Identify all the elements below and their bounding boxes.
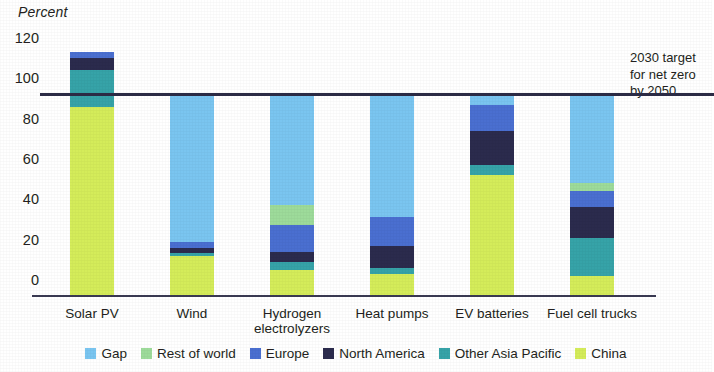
- legend-swatch-icon: [575, 348, 586, 359]
- legend-swatch-icon: [141, 348, 152, 359]
- bar-segment[interactable]: [70, 106, 114, 296]
- bar-segment[interactable]: [570, 183, 614, 192]
- bar-segment[interactable]: [170, 247, 214, 253]
- bar-segment[interactable]: [170, 255, 214, 296]
- target-annotation-line: for net zero: [630, 67, 714, 84]
- bar-segment[interactable]: [270, 269, 314, 296]
- bar-segment[interactable]: [570, 275, 614, 296]
- x-axis-category-label-line: EV batteries: [455, 306, 529, 321]
- x-axis-category-label-line: Hydrogen: [254, 306, 330, 321]
- x-axis-category-label: Heat pumps: [356, 306, 429, 321]
- x-axis-category-label: Fuel cell trucks: [547, 306, 637, 321]
- bar-segment[interactable]: [270, 205, 314, 226]
- bar-segment[interactable]: [570, 191, 614, 208]
- bar-segment[interactable]: [570, 207, 614, 238]
- legend-item[interactable]: Rest of world: [141, 346, 236, 361]
- bar-segment[interactable]: [170, 241, 214, 248]
- bar-segment[interactable]: [70, 58, 114, 71]
- target-annotation-line: by 2050: [630, 83, 714, 100]
- bar-segment[interactable]: [70, 52, 114, 59]
- bar-segment[interactable]: [470, 175, 514, 296]
- bar-segment[interactable]: [370, 267, 414, 274]
- x-axis-category-label-line: Solar PV: [65, 306, 118, 321]
- legend-item[interactable]: Other Asia Pacific: [439, 346, 562, 361]
- stacked-bar[interactable]: [170, 94, 214, 296]
- legend-item[interactable]: North America: [323, 346, 425, 361]
- legend-swatch-icon: [323, 348, 334, 359]
- bar-segment[interactable]: [570, 237, 614, 276]
- bar-group[interactable]: Heat pumps: [370, 34, 414, 296]
- legend-item[interactable]: Europe: [250, 346, 310, 361]
- x-axis-category-label: Hydrogenelectrolyzers: [254, 306, 330, 336]
- bar-segment[interactable]: [270, 94, 314, 205]
- x-axis-category-label-line: Wind: [177, 306, 208, 321]
- bar-segment[interactable]: [370, 245, 414, 268]
- bar-segment[interactable]: [270, 251, 314, 262]
- x-axis-category-label-line: Fuel cell trucks: [547, 306, 637, 321]
- legend-label: Other Asia Pacific: [455, 346, 562, 361]
- legend-item[interactable]: China: [575, 346, 626, 361]
- bar-segment[interactable]: [170, 94, 214, 242]
- bars-layer: Solar PVWindHydrogenelectrolyzersHeat pu…: [46, 34, 656, 296]
- bar-segment[interactable]: [570, 94, 614, 183]
- bar-group[interactable]: Wind: [170, 34, 214, 296]
- stacked-bar[interactable]: [570, 94, 614, 296]
- bar-segment[interactable]: [270, 261, 314, 270]
- stacked-bar[interactable]: [470, 94, 514, 296]
- legend-swatch-icon: [439, 348, 450, 359]
- x-axis-category-label: Solar PV: [65, 306, 118, 321]
- x-axis-category-label: Wind: [177, 306, 208, 321]
- legend-item[interactable]: Gap: [85, 346, 127, 361]
- bar-segment[interactable]: [370, 273, 414, 296]
- stacked-bar[interactable]: [70, 52, 114, 296]
- x-axis-line: [32, 295, 656, 298]
- bar-segment[interactable]: [170, 252, 214, 256]
- plot-area: Solar PVWindHydrogenelectrolyzersHeat pu…: [46, 34, 656, 296]
- bar-segment[interactable]: [270, 225, 314, 252]
- legend-swatch-icon: [85, 348, 96, 359]
- bar-segment[interactable]: [470, 104, 514, 131]
- bar-segment[interactable]: [470, 165, 514, 176]
- chart-legend: GapRest of worldEuropeNorth AmericaOther…: [0, 346, 712, 361]
- bar-segment[interactable]: [370, 94, 414, 217]
- legend-label: Gap: [101, 346, 127, 361]
- x-axis-category-label-line: Heat pumps: [356, 306, 429, 321]
- y-tick-label: 40: [23, 191, 39, 207]
- bar-group[interactable]: Solar PV: [70, 34, 114, 296]
- bar-segment[interactable]: [370, 217, 414, 246]
- bar-group[interactable]: EV batteries: [470, 34, 514, 296]
- stacked-bar[interactable]: [370, 94, 414, 296]
- x-axis-category-label: EV batteries: [455, 306, 529, 321]
- stacked-bar[interactable]: [270, 94, 314, 296]
- legend-label: China: [591, 346, 626, 361]
- target-annotation-line: 2030 target: [630, 50, 714, 67]
- x-axis-category-label-line: electrolyzers: [254, 321, 330, 336]
- y-tick-label: 100: [15, 70, 39, 86]
- legend-label: Europe: [266, 346, 310, 361]
- y-tick-label: 20: [23, 232, 39, 248]
- legend-label: Rest of world: [157, 346, 236, 361]
- bar-segment[interactable]: [70, 70, 114, 107]
- y-tick-label: 60: [23, 151, 39, 167]
- y-tick-label: 120: [15, 30, 39, 46]
- legend-label: North America: [339, 346, 425, 361]
- y-axis-title: Percent: [18, 4, 68, 20]
- legend-swatch-icon: [250, 348, 261, 359]
- y-tick-label: 80: [23, 111, 39, 127]
- y-tick-label: 0: [31, 272, 39, 288]
- net-zero-target-line: [40, 93, 714, 96]
- bar-segment[interactable]: [470, 130, 514, 165]
- bar-group[interactable]: Fuel cell trucks: [570, 34, 614, 296]
- bar-group[interactable]: Hydrogenelectrolyzers: [270, 34, 314, 296]
